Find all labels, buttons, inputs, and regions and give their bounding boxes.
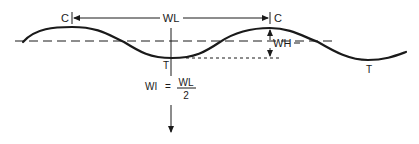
trough-left-label: T <box>163 60 169 71</box>
wavelength-label: WL <box>163 12 180 24</box>
formula-numerator: WL <box>179 77 194 88</box>
wave-curve <box>23 27 406 60</box>
formula-denominator: 2 <box>183 90 189 101</box>
formula-lhs: WI <box>145 81 157 92</box>
crest-left-label: C <box>61 12 69 24</box>
crest-right-label: C <box>274 12 282 24</box>
wave-diagram: C C WL WH T T WI = WL 2 <box>0 0 419 144</box>
wave-height-label: WH <box>273 37 291 49</box>
formula-equals: = <box>165 81 171 92</box>
trough-right-label: T <box>366 64 372 75</box>
